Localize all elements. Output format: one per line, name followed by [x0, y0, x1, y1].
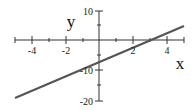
y-tick-label-neg20: -20	[80, 96, 93, 107]
x-tick-label-2: 2	[131, 45, 136, 56]
x-tick-label-4: 4	[165, 45, 170, 56]
x-axis-label: x	[176, 54, 185, 73]
y-tick-label-neg10: -10	[80, 65, 93, 76]
y-axis-label: y	[67, 12, 76, 31]
y-tick-label-10: 10	[83, 6, 93, 17]
x-tick-label-neg2: -2	[62, 45, 70, 56]
x-tick-label-neg4: -4	[28, 45, 36, 56]
coordinate-plot: -4 -2 2 4 10 -10 -20 y x	[0, 0, 192, 110]
